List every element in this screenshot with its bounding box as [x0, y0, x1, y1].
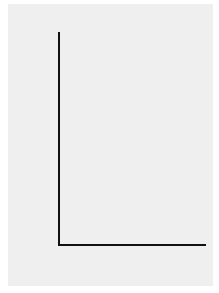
x-axis	[58, 244, 206, 246]
y-axis	[58, 32, 60, 246]
